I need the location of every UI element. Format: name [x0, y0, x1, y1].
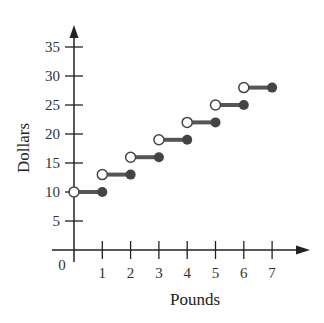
x-tick-label: 3 — [155, 265, 163, 281]
open-endpoint-dot — [239, 83, 249, 93]
y-axis-label: Dollars — [14, 123, 33, 173]
y-tick-label: 20 — [45, 126, 60, 142]
closed-endpoint-dot — [267, 83, 277, 93]
x-tick-label: 7 — [268, 265, 276, 281]
open-endpoint-dot — [211, 100, 221, 110]
axes — [52, 25, 310, 262]
x-tick-label: 5 — [212, 265, 220, 281]
open-endpoint-dot — [126, 152, 136, 162]
y-tick-label: 30 — [45, 68, 60, 84]
x-axis-label: Pounds — [170, 290, 220, 309]
closed-endpoint-dot — [211, 117, 221, 127]
closed-endpoint-dot — [154, 152, 164, 162]
closed-endpoint-dot — [239, 100, 249, 110]
closed-endpoint-dot — [97, 187, 107, 197]
y-tick-label: 25 — [45, 97, 60, 113]
open-endpoint-dot — [182, 117, 192, 127]
y-tick-label: 5 — [53, 213, 61, 229]
closed-endpoint-dot — [126, 170, 136, 180]
y-tick-label: 15 — [45, 155, 60, 171]
y-tick-label: 35 — [45, 39, 60, 55]
y-axis-arrow-icon — [70, 25, 79, 38]
x-tick-label: 2 — [127, 265, 135, 281]
closed-endpoint-dot — [182, 135, 192, 145]
x-tick-label: 4 — [183, 265, 191, 281]
x-tick-label: 1 — [99, 265, 107, 281]
y-tick-label: 10 — [45, 184, 60, 200]
open-endpoint-dot — [69, 187, 79, 197]
origin-label: 0 — [58, 257, 66, 273]
step-function-chart: 12345675101520253035 Pounds Dollars 0 — [0, 0, 324, 323]
open-endpoint-dot — [97, 170, 107, 180]
open-endpoint-dot — [154, 135, 164, 145]
step-segments — [69, 83, 277, 197]
x-axis-arrow-icon — [296, 246, 310, 255]
x-tick-label: 6 — [240, 265, 248, 281]
